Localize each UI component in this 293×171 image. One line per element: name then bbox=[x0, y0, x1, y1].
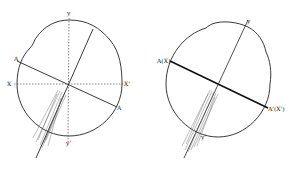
figure-canvas: y y' X X' A A y y' A(X) A'(X') bbox=[0, 0, 293, 171]
right-label-y-bottom: y' bbox=[200, 133, 206, 141]
right-label-y-top: y bbox=[246, 17, 251, 25]
left-y-axis-dashed bbox=[68, 18, 69, 142]
left-label-y-bottom: y' bbox=[65, 139, 71, 147]
left-label-a-right: A bbox=[116, 104, 122, 111]
left-label-x-left: X bbox=[7, 80, 12, 87]
right-label-a-left: A(X) bbox=[156, 57, 170, 64]
right-a-line-thick bbox=[170, 61, 268, 108]
left-label-x-right: X' bbox=[124, 80, 130, 87]
left-hatching bbox=[33, 90, 66, 148]
right-outline bbox=[166, 22, 271, 137]
left-outline bbox=[17, 20, 122, 136]
right-diagram: y y' A(X) A'(X') bbox=[156, 17, 285, 158]
left-label-a-left: A bbox=[13, 55, 19, 62]
right-label-a-right: A'(X') bbox=[267, 105, 285, 112]
right-hatching bbox=[182, 90, 218, 152]
left-oblique-line bbox=[36, 29, 93, 158]
left-diagram: y y' X X' A A bbox=[7, 9, 130, 158]
left-label-y-top: y bbox=[66, 9, 71, 17]
